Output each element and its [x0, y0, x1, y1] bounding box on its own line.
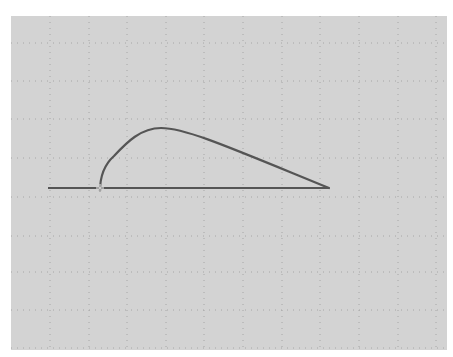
canvas-svg	[11, 16, 447, 350]
canvas-background	[11, 16, 447, 350]
drawing-canvas[interactable]	[11, 16, 447, 350]
